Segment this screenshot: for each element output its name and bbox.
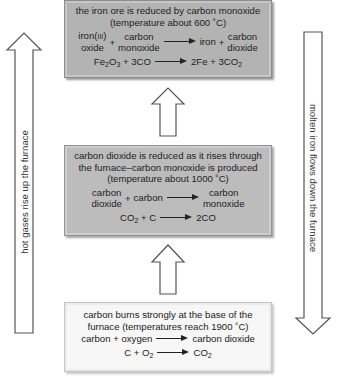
carbon-combustion-box: carbon burns strongly at the base of the… — [64, 302, 272, 372]
equation-right: carbon dioxide — [192, 333, 254, 345]
plus-sign: + — [110, 37, 116, 49]
equation-left: CO2 + C — [120, 212, 156, 224]
reaction-arrow-icon — [156, 335, 188, 343]
temperature-note: (temperature about 600 ˚C) — [65, 17, 271, 29]
symbol-equation: CO2 + C 2CO — [65, 212, 271, 224]
box-heading: furnace (temperatures reach 1900 ˚C) — [65, 321, 271, 333]
product-carbon-monoxide: carbon monoxide — [203, 187, 245, 209]
word-equation: carbon + oxygen carbon dioxide — [65, 333, 271, 345]
blast-furnace-diagram: hot gases rise up the furnace molten iro… — [0, 0, 339, 376]
reaction-arrow-icon — [167, 194, 199, 202]
symbol-equation: C + O2 CO2 — [65, 347, 271, 359]
symbol-equation: Fe2O3 + 3CO 2Fe + 3CO2 — [65, 56, 271, 68]
carbon-dioxide-reduction-box: carbon dioxide is reduced as it rises th… — [64, 145, 272, 236]
plus-sign: + — [125, 193, 131, 205]
equation-left: C + O2 — [124, 347, 153, 359]
temperature-note: (temperature about 1000 ˚C) — [65, 173, 271, 185]
equation-right: 2CO — [196, 212, 216, 224]
plus-sign: + — [219, 37, 225, 49]
word-equation: carbon dioxide + carbon carbon monoxide — [65, 187, 271, 209]
molten-iron-label: molten iron flows down the furnace — [308, 104, 319, 252]
reactant-carbon-monoxide: carbon monoxide — [118, 31, 160, 53]
reaction-arrow-icon — [155, 58, 187, 66]
equation-right: 2Fe + 3CO2 — [191, 56, 242, 68]
reaction-arrow-icon — [164, 38, 196, 46]
word-equation: iron(III) oxide + carbon monoxide iron +… — [65, 30, 271, 53]
flow-up-arrow-icon — [152, 245, 184, 294]
box-heading: carbon dioxide is reduced as it rises th… — [65, 150, 271, 162]
box-heading: the iron ore is reduced by carbon monoxi… — [65, 5, 271, 17]
box-heading: the furnace–carbon monoxide is produced — [65, 162, 271, 174]
reactant-carbon: carbon — [134, 192, 163, 204]
hot-gases-label: hot gases rise up the furnace — [19, 130, 30, 254]
iron-ore-reduction-box: the iron ore is reduced by carbon monoxi… — [64, 0, 272, 78]
equation-right: CO2 — [193, 347, 211, 359]
product-iron: iron — [200, 36, 216, 48]
reactant-carbon-dioxide: carbon dioxide — [92, 187, 122, 209]
box-heading: carbon burns strongly at the base of the — [65, 309, 271, 321]
flow-up-arrow-icon — [152, 88, 184, 136]
reactant-iron-oxide: iron(III) oxide — [78, 30, 106, 53]
product-carbon-dioxide: carbon dioxide — [227, 31, 257, 53]
equation-left: carbon + oxygen — [81, 333, 152, 345]
reaction-arrow-icon — [160, 213, 192, 221]
reaction-arrow-icon — [157, 348, 189, 356]
equation-left: Fe2O3 + 3CO — [94, 56, 151, 68]
